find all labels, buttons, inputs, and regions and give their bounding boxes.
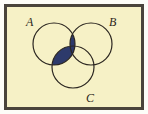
venn-diagram-canvas (0, 0, 148, 114)
set-label-b: B (109, 16, 116, 28)
circle-set-b (70, 23, 112, 65)
venn-diagram-figure: A B C (0, 0, 148, 114)
set-label-a: A (26, 16, 33, 28)
set-label-c: C (86, 92, 94, 104)
